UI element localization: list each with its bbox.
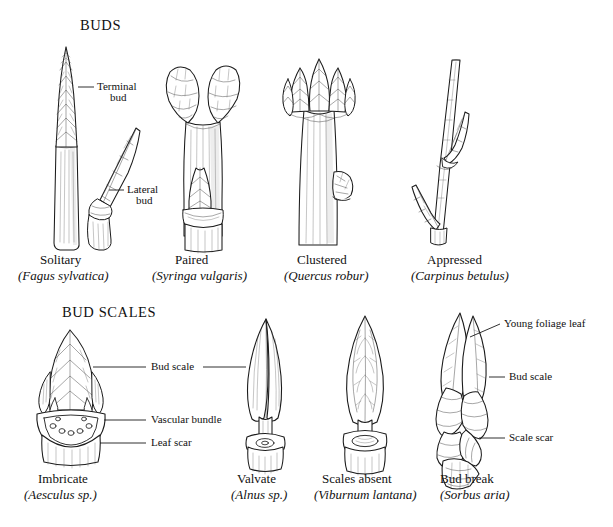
caption-paired-common: Paired: [175, 252, 209, 267]
caption-scales-absent-latin: (Viburnum lantana): [314, 487, 417, 502]
caption-solitary-latin: (Fagus sylvatica): [18, 268, 109, 283]
annotation-vascular-bundle: Vascular bundle: [151, 413, 222, 425]
annotation-terminal-bud-line2: bud: [110, 91, 127, 103]
caption-bud-break-latin: (Sorbus aria): [440, 487, 510, 502]
caption-clustered-common: Clustered: [297, 252, 347, 267]
caption-paired-latin: (Syringa vulgaris): [152, 268, 247, 283]
section-title-buds: BUDS: [80, 17, 121, 33]
caption-appressed-latin: (Carpinus betulus): [411, 268, 509, 283]
botanical-plate: BUDS Terminal b: [0, 0, 613, 527]
caption-imbricate-common: Imbricate: [38, 471, 88, 486]
caption-solitary-common: Solitary: [40, 252, 82, 267]
caption-scales-absent-common: Scales absent: [322, 471, 392, 486]
caption-clustered-latin: (Quercus robur): [284, 268, 369, 283]
annotation-scale-scar: Scale scar: [509, 431, 554, 443]
annotation-lateral-bud-line2: bud: [136, 194, 153, 206]
annotation-leaf-scar: Leaf scar: [151, 436, 192, 448]
caption-appressed-common: Appressed: [427, 252, 482, 267]
caption-valvate-common: Valvate: [237, 471, 276, 486]
annotation-bud-scale-left: Bud scale: [151, 360, 194, 372]
caption-imbricate-latin: (Aesculus sp.): [24, 487, 97, 502]
annotation-bud-scale-right: Bud scale: [509, 370, 552, 382]
annotation-young-foliage-leaf: Young foliage leaf: [504, 317, 586, 329]
caption-valvate-latin: (Alnus sp.): [231, 487, 287, 502]
caption-bud-break-common: Bud break: [440, 471, 494, 486]
section-title-bud-scales: BUD SCALES: [62, 304, 156, 320]
